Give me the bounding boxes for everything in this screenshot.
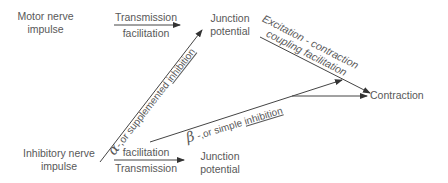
label-facilitation-top: facilitation [112,27,180,40]
inhibitory-nerve-line2: impulse [18,160,100,173]
motor-nerve-line2: impulse [8,23,83,36]
node-contraction: Contraction [370,89,424,102]
node-inhibitory-nerve: Inhibitory nerve impulse [18,147,100,173]
label-facilitation-bottom: facilitation [112,146,180,159]
label-transmission-top: Transmission [112,11,180,24]
node-junction-bottom: Junction potential [190,150,250,176]
junction-top-line2: potential [200,25,260,38]
junction-top-line1: Junction [200,12,260,25]
inhibitory-nerve-line1: Inhibitory nerve [18,147,100,160]
node-junction-top: Junction potential [200,12,260,38]
label-transmission-bottom: Transmission [112,162,180,175]
node-motor-nerve: Motor nerve impulse [8,10,83,36]
junction-bottom-line2: potential [190,163,250,176]
junction-bottom-line1: Junction [190,150,250,163]
motor-nerve-line1: Motor nerve [8,10,83,23]
